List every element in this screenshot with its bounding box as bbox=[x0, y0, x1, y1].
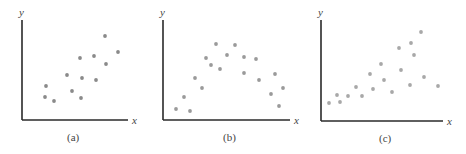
data-point bbox=[214, 42, 218, 46]
x-axis-label-a: x bbox=[131, 114, 137, 126]
y-axis-label-a: y bbox=[18, 6, 24, 18]
data-point bbox=[338, 100, 342, 104]
caption-b: (b) bbox=[223, 131, 236, 144]
data-point bbox=[43, 95, 47, 99]
data-point bbox=[92, 54, 96, 58]
data-point bbox=[80, 76, 84, 80]
data-point bbox=[104, 62, 108, 66]
panel-b: y x (b) bbox=[159, 6, 299, 144]
panel-c: y x (c) bbox=[317, 6, 452, 145]
panel-a: y x (a) bbox=[18, 6, 137, 144]
data-points-a bbox=[43, 34, 120, 103]
data-point bbox=[281, 86, 285, 90]
data-point bbox=[371, 87, 375, 91]
data-point bbox=[188, 109, 192, 113]
data-point bbox=[354, 85, 358, 89]
y-axis-label-c: y bbox=[317, 6, 323, 18]
data-point bbox=[408, 83, 412, 87]
data-point bbox=[368, 72, 372, 76]
data-point bbox=[335, 93, 339, 97]
data-point bbox=[52, 99, 56, 103]
data-point bbox=[436, 84, 440, 88]
data-point bbox=[242, 71, 246, 75]
data-point bbox=[412, 53, 416, 57]
data-point bbox=[218, 67, 222, 71]
data-point bbox=[94, 78, 98, 82]
data-point bbox=[116, 50, 120, 54]
data-point bbox=[257, 78, 261, 82]
data-point bbox=[419, 30, 423, 34]
data-point bbox=[182, 95, 186, 99]
data-point bbox=[254, 57, 258, 61]
data-point bbox=[70, 89, 74, 93]
data-point bbox=[409, 41, 413, 45]
data-point bbox=[174, 107, 178, 111]
data-point bbox=[242, 55, 246, 59]
caption-c: (c) bbox=[379, 132, 392, 145]
data-point bbox=[193, 76, 197, 80]
data-point bbox=[78, 56, 82, 60]
data-point bbox=[79, 96, 83, 100]
data-point bbox=[44, 84, 48, 88]
x-axis-label-c: x bbox=[446, 115, 452, 127]
data-points-b bbox=[174, 42, 285, 113]
data-point bbox=[382, 78, 386, 82]
data-point bbox=[397, 46, 401, 50]
scatter-figure: y x (a) y x (b) y x (c) bbox=[0, 0, 466, 154]
data-point bbox=[103, 34, 107, 38]
data-point bbox=[65, 73, 69, 77]
data-point bbox=[360, 94, 364, 98]
data-point bbox=[269, 92, 273, 96]
data-point bbox=[204, 56, 208, 60]
y-axis-label-b: y bbox=[159, 6, 165, 18]
data-point bbox=[225, 53, 229, 57]
data-point bbox=[277, 104, 281, 108]
data-point bbox=[209, 63, 213, 67]
data-point bbox=[390, 90, 394, 94]
caption-a: (a) bbox=[67, 131, 80, 144]
data-point bbox=[327, 101, 331, 105]
data-point bbox=[422, 75, 426, 79]
x-axis-label-b: x bbox=[293, 114, 299, 126]
data-point bbox=[200, 86, 204, 90]
data-point bbox=[346, 94, 350, 98]
data-point bbox=[233, 43, 237, 47]
data-point bbox=[399, 68, 403, 72]
data-points-c bbox=[327, 30, 440, 105]
data-point bbox=[379, 62, 383, 66]
data-point bbox=[273, 72, 277, 76]
